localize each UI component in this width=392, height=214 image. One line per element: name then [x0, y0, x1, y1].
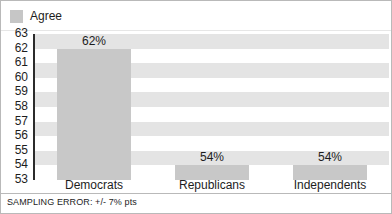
- legend-swatch-icon: [10, 10, 23, 23]
- plot-area: 62%54%54%: [35, 34, 389, 180]
- bar-value-label: 54%: [293, 151, 366, 163]
- y-axis-tick-label: 59: [15, 85, 28, 97]
- plot-region: 6362616059585756555453 62%54%54%: [1, 32, 392, 187]
- x-axis-label-independents: Independents: [271, 178, 389, 192]
- y-axis-tick-label: 57: [15, 115, 28, 127]
- y-axis-tick-label: 63: [15, 27, 28, 39]
- poll-bar-chart: Agree 6362616059585756555453 62%54%54% D…: [0, 0, 392, 214]
- sampling-error-note: SAMPLING ERROR: +/- 7% pts: [7, 197, 137, 208]
- y-axis-tick-label: 61: [15, 56, 28, 68]
- chart-legend: Agree: [1, 1, 392, 31]
- legend-item-agree: Agree: [10, 8, 62, 24]
- bar-value-label: 54%: [175, 151, 248, 163]
- x-axis-label-democrats: Democrats: [35, 178, 153, 192]
- bar-democrats: [57, 49, 130, 180]
- y-axis-tick-label: 58: [15, 100, 28, 112]
- y-axis-tick-label: 55: [15, 144, 28, 156]
- footer-divider: [1, 193, 392, 194]
- legend-label: Agree: [30, 10, 62, 23]
- y-axis-tick-label: 60: [15, 71, 28, 83]
- bar-value-label: 62%: [57, 35, 130, 47]
- y-axis-tick-label: 62: [15, 42, 28, 54]
- y-axis: 6362616059585756555453: [1, 32, 32, 180]
- y-axis-tick-label: 53: [15, 173, 28, 185]
- x-axis-label-republicans: Republicans: [153, 178, 271, 192]
- y-axis-tick-label: 56: [15, 129, 28, 141]
- y-axis-tick-label: 54: [15, 158, 28, 170]
